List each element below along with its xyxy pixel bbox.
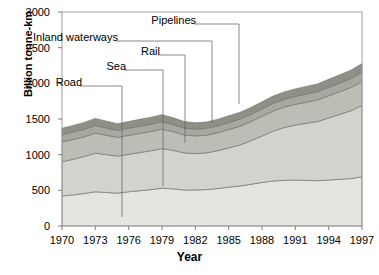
annotation-label-sea: Sea	[106, 61, 126, 72]
y-tick-label: 0	[10, 221, 50, 232]
x-axis-title: Year	[0, 250, 379, 264]
leader-line-pipelines	[194, 24, 239, 104]
annotation-label-rail: Rail	[141, 46, 160, 57]
annotation-label-inland-waterways: Inland waterways	[33, 32, 118, 43]
y-tick-label: 2500	[10, 43, 50, 54]
y-tick-label: 3000	[10, 7, 50, 18]
y-tick-label: 1000	[10, 150, 50, 161]
y-tick-label: 2000	[10, 78, 50, 89]
y-tick-label: 500	[10, 185, 50, 196]
x-tick-label: 1997	[342, 235, 379, 246]
leader-line-inland-waterways	[116, 41, 212, 123]
annotation-label-pipelines: Pipelines	[151, 15, 196, 26]
y-tick-label: 1500	[10, 114, 50, 125]
chart-root: Billion tonne-km Year 050010001500200025…	[0, 0, 379, 275]
annotation-label-road: Road	[56, 77, 82, 88]
